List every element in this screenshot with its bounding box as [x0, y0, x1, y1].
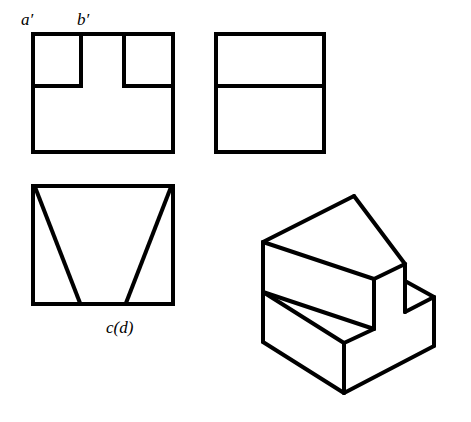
- top-view: [33, 186, 173, 304]
- front-view: [33, 34, 173, 152]
- label-c-d: c(d): [106, 318, 133, 338]
- label-a-prime: a′: [21, 10, 33, 30]
- technical-drawing: [0, 0, 471, 422]
- side-view: [216, 34, 324, 152]
- label-b-prime: b′: [77, 10, 89, 30]
- isometric-view: [263, 196, 434, 393]
